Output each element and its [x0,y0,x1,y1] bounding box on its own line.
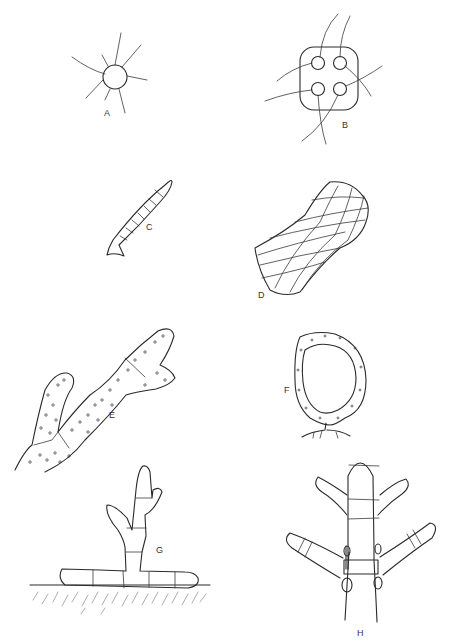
panel-c-drawing [107,181,172,256]
panel-g-label: G [156,545,163,555]
panel-a-label: A [104,108,110,118]
panel-a-drawing [72,33,147,113]
panel-h-label: H [357,628,364,638]
panel-h-drawing [286,463,435,622]
panel-c-label: C [146,222,153,232]
botanical-figure [0,0,453,643]
panel-b-label: B [342,120,348,130]
panel-f-label: F [284,385,290,395]
panel-f-drawing [295,333,366,438]
panel-d-label: D [258,290,265,300]
panel-g-drawing [30,466,210,614]
panel-d-drawing [255,182,368,295]
panel-e-drawing [15,329,175,472]
panel-b-drawing [265,14,382,144]
panel-e-label: E [109,410,115,420]
